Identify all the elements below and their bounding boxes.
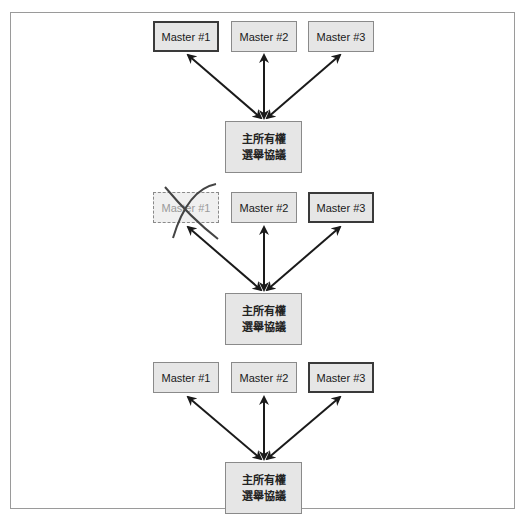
panel1-master-3: Master #3: [308, 21, 374, 52]
panel3-master-1: Master #1: [153, 362, 219, 393]
master-label: Master #3: [317, 202, 366, 214]
panel3-master-2: Master #2: [231, 362, 297, 393]
protocol-line-2: 選舉協議: [242, 319, 286, 335]
master-label: Master #3: [317, 31, 366, 43]
diagram-frame: [10, 12, 515, 509]
master-label: Master #1: [162, 31, 211, 43]
panel1-master-2: Master #2: [231, 21, 297, 52]
panel2-master-2: Master #2: [231, 192, 297, 223]
master-label: Master #1: [162, 372, 211, 384]
panel2-master-3: Master #3: [308, 192, 374, 223]
protocol-line-1: 主所有權: [242, 131, 286, 147]
panel2-election-protocol: 主所有權 選舉協議: [225, 293, 302, 345]
master-label: Master #2: [240, 31, 289, 43]
protocol-line-1: 主所有權: [242, 472, 286, 488]
master-label: Master #2: [240, 202, 289, 214]
panel2-master-1-failed: Master #1: [153, 192, 219, 223]
panel1-master-1: Master #1: [153, 21, 219, 52]
master-label: Master #1: [162, 202, 211, 214]
protocol-line-1: 主所有權: [242, 303, 286, 319]
master-label: Master #3: [317, 372, 366, 384]
protocol-line-2: 選舉協議: [242, 488, 286, 504]
panel3-election-protocol: 主所有權 選舉協議: [225, 462, 302, 514]
master-label: Master #2: [240, 372, 289, 384]
panel1-election-protocol: 主所有權 選舉協議: [225, 121, 302, 173]
protocol-line-2: 選舉協議: [242, 147, 286, 163]
panel3-master-3: Master #3: [308, 362, 374, 393]
